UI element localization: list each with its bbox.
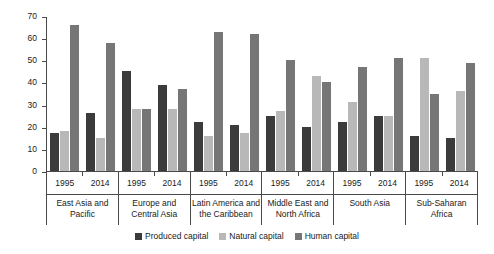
bar-produced	[230, 125, 239, 172]
y-tick: 20	[42, 128, 46, 129]
region-name-line: Middle East and	[262, 198, 333, 209]
region-year-cell: 19952014	[190, 172, 262, 194]
region-name-label: Sub-SaharanAfrica	[405, 194, 478, 225]
bar-natural	[132, 109, 141, 171]
year-bar-cluster	[83, 17, 119, 171]
bar-produced	[374, 116, 383, 171]
y-tick-label: 0	[32, 166, 37, 177]
year-bar-cluster	[334, 17, 370, 171]
x-tick-label-year: 2014	[442, 178, 477, 189]
bar-human	[358, 67, 367, 171]
year-bar-cluster	[119, 17, 155, 171]
bar-produced	[446, 138, 455, 171]
bar-natural	[168, 109, 177, 171]
region-name-line: East Asia and	[47, 198, 118, 209]
region-name-line: South Asia	[334, 198, 405, 209]
bar-human	[430, 94, 439, 172]
y-tick-label: 70	[28, 11, 37, 22]
year-bar-cluster	[47, 17, 83, 171]
legend-item: Natural capital	[219, 231, 283, 242]
bar-natural	[384, 116, 393, 171]
bar-human	[286, 60, 295, 171]
bar-natural	[456, 91, 465, 171]
bar-groups	[47, 17, 478, 171]
region-name-line: Central Asia	[119, 209, 190, 220]
bar-produced	[50, 133, 59, 171]
y-tick-label: 50	[28, 55, 37, 66]
bar-natural	[96, 138, 105, 171]
legend-item: Produced capital	[135, 231, 208, 242]
bar-human	[106, 43, 115, 171]
region-year-cell: 19952014	[333, 172, 405, 194]
bar-produced	[122, 71, 131, 171]
x-tick-label-year: 2014	[298, 178, 333, 189]
bar-produced	[302, 127, 311, 171]
region-year-cell: 19952014	[118, 172, 190, 194]
region-name-line: Sub-Saharan	[406, 198, 477, 209]
year-bar-cluster	[262, 17, 298, 171]
x-tick-mark	[298, 172, 299, 176]
region-year-cell: 19952014	[405, 172, 478, 194]
y-tick: 10	[42, 150, 46, 151]
x-tick-mark	[82, 172, 83, 176]
x-tick-label-year: 2014	[82, 178, 117, 189]
bar-natural	[276, 111, 285, 171]
bar-human	[214, 32, 223, 172]
bar-produced	[194, 122, 203, 171]
x-tick-mark	[154, 172, 155, 176]
bar-produced	[266, 116, 275, 171]
bar-natural	[60, 131, 69, 171]
region-labels-row: East Asia andPacificEurope andCentral As…	[46, 194, 478, 225]
legend-label: Produced capital	[145, 231, 208, 242]
x-tick-label-year: 1995	[406, 178, 441, 189]
x-tick-label-year: 1995	[47, 178, 82, 189]
bar-produced	[158, 85, 167, 171]
bar-natural	[420, 58, 429, 171]
year-bar-cluster	[155, 17, 191, 171]
x-tick-label-year: 2014	[226, 178, 261, 189]
bar-human	[466, 63, 475, 172]
x-axis-band: 1995201419952014199520141995201419952014…	[46, 172, 478, 225]
region-name-line: North Africa	[262, 209, 333, 220]
y-tick-label: 10	[28, 144, 37, 155]
x-tick-label-year: 2014	[370, 178, 405, 189]
year-bar-cluster	[406, 17, 442, 171]
x-tick-label-year: 1995	[262, 178, 297, 189]
x-axis-divider	[46, 194, 478, 195]
y-tick: 30	[42, 106, 46, 107]
region-bar-group	[262, 17, 334, 171]
plot-area: 010203040506070	[46, 17, 478, 172]
region-name-label: South Asia	[333, 194, 405, 225]
bar-produced	[86, 113, 95, 171]
x-tick-label-year: 1995	[119, 178, 154, 189]
bar-human	[178, 89, 187, 171]
x-tick-mark	[442, 172, 443, 176]
y-tick-label: 30	[28, 100, 37, 111]
y-tick-label: 40	[28, 77, 37, 88]
y-tick: 60	[42, 39, 46, 40]
bar-human	[250, 34, 259, 171]
bar-human	[70, 25, 79, 171]
region-name-line: the Caribbean	[191, 209, 262, 220]
y-tick-label: 60	[28, 33, 37, 44]
bar-natural	[240, 133, 249, 171]
region-bar-group	[334, 17, 406, 171]
region-name-line: Latin America and	[191, 198, 262, 209]
year-bar-cluster	[298, 17, 334, 171]
bar-human	[322, 82, 331, 171]
legend-label: Human capital	[305, 231, 359, 242]
year-bar-cluster	[442, 17, 478, 171]
legend-swatch-icon	[219, 233, 226, 240]
year-bar-cluster	[227, 17, 263, 171]
x-tick-label-year: 1995	[191, 178, 226, 189]
region-bar-group	[406, 17, 478, 171]
bar-human	[142, 109, 151, 171]
year-labels-row: 1995201419952014199520141995201419952014…	[46, 172, 478, 194]
region-name-line: Europe and	[119, 198, 190, 209]
y-tick: 70	[42, 17, 46, 18]
region-name-line: Pacific	[47, 209, 118, 220]
region-bar-group	[47, 17, 119, 171]
region-name-label: Middle East andNorth Africa	[261, 194, 333, 225]
region-bar-group	[119, 17, 191, 171]
region-name-label: East Asia andPacific	[46, 194, 118, 225]
